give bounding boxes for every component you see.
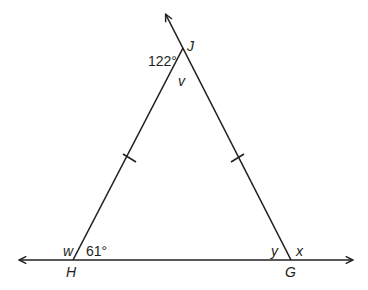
side-HJ [73, 48, 183, 260]
angle-label-w: w [63, 243, 74, 259]
angle-label-exterior-J: 122° [148, 53, 177, 69]
triangle-diagram: J 122° v w 61° H y x G [0, 0, 368, 290]
vertex-label-H: H [66, 264, 77, 280]
angle-label-x: x [295, 243, 304, 259]
angle-label-v: v [178, 73, 186, 89]
vertex-label-J: J [186, 38, 195, 54]
angle-label-y: y [270, 243, 279, 259]
angle-label-interior-H: 61° [86, 243, 107, 259]
line-GJ-extended [166, 15, 291, 260]
vertex-label-G: G [285, 264, 296, 280]
